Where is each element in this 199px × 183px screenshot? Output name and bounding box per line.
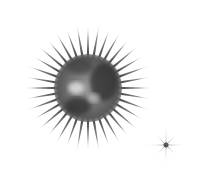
spike: [76, 116, 84, 155]
spike: [115, 65, 152, 80]
sparkle-icon: [140, 119, 192, 171]
spike: [87, 117, 90, 152]
spike: [76, 21, 84, 60]
spike: [115, 97, 152, 112]
ball-body: [54, 54, 122, 122]
spike: [92, 21, 100, 60]
spike: [24, 97, 61, 112]
illustration: [0, 0, 199, 183]
spike: [24, 65, 61, 80]
spiky-ball-with-sparkle-icon: [0, 0, 199, 183]
spike: [117, 87, 156, 90]
spike: [92, 116, 100, 155]
spike: [20, 87, 59, 90]
spike: [87, 24, 90, 59]
